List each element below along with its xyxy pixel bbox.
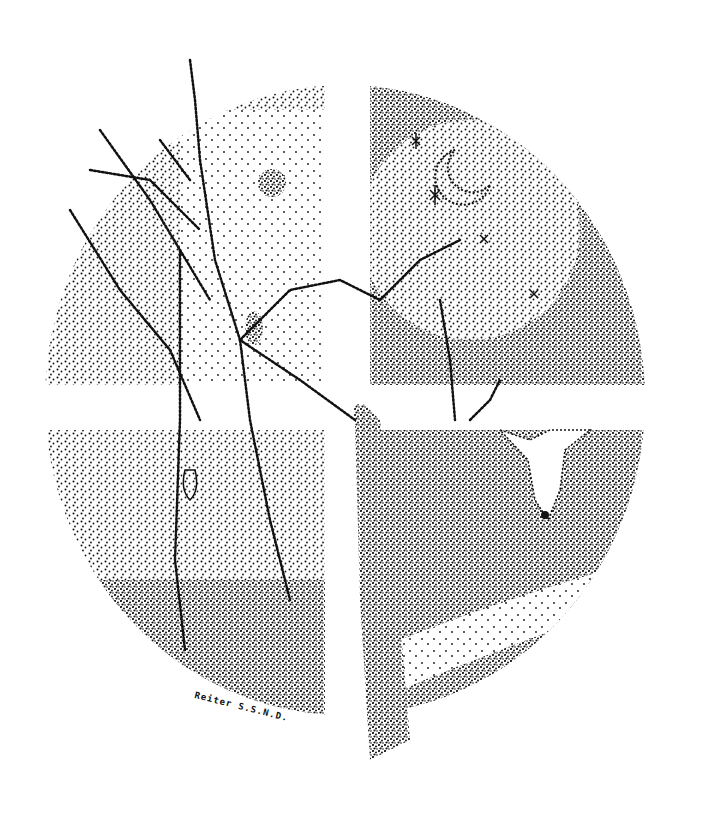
cocoon-icon bbox=[245, 311, 263, 345]
stipple-medallion-illustration bbox=[0, 0, 705, 821]
sun-icon bbox=[258, 169, 286, 197]
quadrant-lower-right bbox=[370, 430, 660, 720]
quadrant-upper-right bbox=[360, 70, 660, 395]
quadrant-lower-left bbox=[40, 430, 325, 720]
